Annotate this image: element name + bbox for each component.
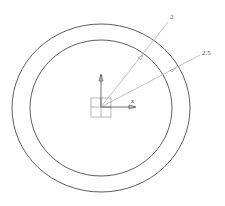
diagram-canvas: x 2 2.5 bbox=[0, 0, 225, 206]
dimension-label-2: 2 bbox=[170, 13, 174, 21]
dimension-leader-2 bbox=[101, 22, 168, 107]
x-axis-label: x bbox=[131, 97, 135, 105]
dimension-label-2-5: 2.5 bbox=[202, 49, 211, 57]
y-axis-arrow-icon bbox=[99, 74, 103, 107]
x-axis-arrow-icon bbox=[101, 105, 136, 109]
